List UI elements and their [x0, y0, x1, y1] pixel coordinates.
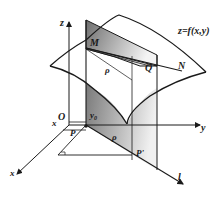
origin-label: O [58, 111, 65, 122]
point-P-label: P [70, 128, 76, 138]
z-axis-label: z [59, 17, 64, 28]
point-N-label: N [177, 60, 186, 71]
x-axis[interactable] [17, 125, 69, 174]
rho-lower-label: ρ [111, 132, 117, 142]
point-P-prime-label: P' [136, 148, 144, 158]
line-l-label: l [178, 171, 181, 182]
vertical-plane-lower [86, 84, 157, 170]
x-axis-label: x [9, 168, 15, 178]
point-M-label: M [89, 37, 100, 48]
x-small-label: x [51, 118, 57, 128]
diagram-canvas: z y x x O y0 z=f(x,y) M N Q ρ ρ P P' l [0, 0, 218, 201]
rho-upper-label: ρ [104, 65, 110, 75]
diagram-svg: z y x x O y0 z=f(x,y) M N Q ρ ρ P P' l [0, 0, 218, 201]
point-P-dot [84, 124, 88, 128]
point-Q-label: Q [145, 62, 152, 73]
y-axis-label: y [200, 122, 206, 133]
surface-label: z=f(x,y) [177, 25, 210, 37]
